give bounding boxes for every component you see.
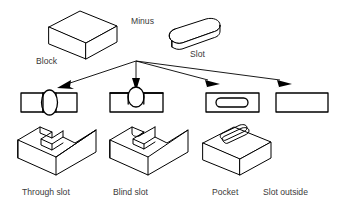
arrow-group (57, 61, 292, 91)
pocket-label: Pocket (212, 187, 239, 197)
topview-pocket (206, 93, 259, 112)
topview-slot-outside (276, 93, 328, 112)
diagram-canvas: Block Minus Slot (0, 0, 337, 206)
feature-taxonomy-diagram: Block Minus Slot (0, 0, 337, 206)
slot-shape (169, 18, 220, 49)
minus-operator-label: Minus (131, 16, 154, 26)
slot-label: Slot (190, 49, 205, 59)
block-shape (49, 11, 117, 59)
block-label: Block (36, 56, 58, 66)
slot-outside-label: Slot outside (263, 187, 308, 197)
topview-through-slot (21, 90, 77, 115)
solid-pocket (203, 125, 271, 175)
solid-blind-slot (110, 127, 188, 175)
through-slot-label: Through slot (22, 187, 70, 197)
arrow-to-through-slot (57, 61, 136, 89)
solid-through-slot (18, 127, 96, 175)
topview-blind-slot (110, 87, 163, 112)
blind-slot-label: Blind slot (113, 187, 148, 197)
arrow-to-pocket (136, 61, 220, 88)
